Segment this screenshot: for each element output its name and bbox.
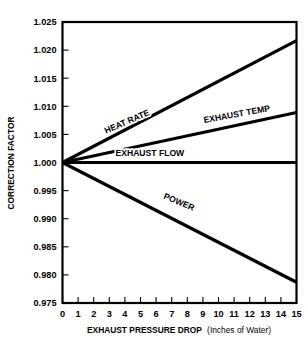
y-tick-label: 0.990 (34, 214, 57, 224)
x-tick-label: 9 (200, 309, 205, 319)
y-tick-label: 0.985 (34, 242, 57, 252)
x-axis-title-main: EXHAUST PRESSURE DROP (87, 325, 202, 335)
y-tick-label: 1.010 (34, 102, 57, 112)
x-tick-label: 13 (260, 309, 270, 319)
chart-svg: 0.9750.9800.9850.9900.9951.0001.0051.010… (0, 0, 308, 351)
y-tick-label: 0.995 (34, 186, 57, 196)
y-axis-title: CORRECTION FACTOR (6, 117, 16, 210)
x-tick-label: 4 (122, 309, 128, 319)
x-tick-label: 8 (185, 309, 190, 319)
x-tick-label: 7 (169, 309, 174, 319)
y-axis-tick-labels: 0.9750.9800.9850.9900.9951.0001.0051.010… (34, 17, 57, 308)
x-tick-label: 6 (154, 309, 159, 319)
y-tick-label: 1.005 (34, 130, 57, 140)
y-tick-label: 1.025 (34, 17, 57, 27)
x-tick-label: 3 (107, 309, 112, 319)
series-label-exhaust-flow: EXHAUST FLOW (115, 148, 185, 158)
correction-factor-chart: 0.9750.9800.9850.9900.9951.0001.0051.010… (0, 0, 308, 351)
x-tick-label: 10 (213, 309, 223, 319)
y-tick-label: 1.015 (34, 74, 57, 84)
y-tick-label: 0.980 (34, 270, 57, 280)
y-tick-label: 0.975 (34, 298, 57, 308)
series-line-heat-rate (63, 41, 297, 163)
x-axis-tick-labels: 0123456789101112131415 (60, 309, 302, 319)
x-tick-label: 14 (276, 309, 287, 319)
x-tick-label: 1 (76, 309, 81, 319)
y-tick-label: 1.000 (34, 158, 57, 168)
x-axis-title-paren: (Inches of Water) (207, 325, 271, 335)
y-tick-label: 1.020 (34, 45, 57, 55)
y-axis-title-text: CORRECTION FACTOR (6, 117, 16, 210)
x-tick-label: 15 (291, 309, 301, 319)
series-line-power (63, 163, 297, 283)
x-tick-label: 5 (138, 309, 143, 319)
x-tick-label: 11 (229, 309, 239, 319)
x-tick-label: 0 (60, 309, 65, 319)
series-label-power: POWER (162, 191, 197, 213)
x-tick-label: 2 (91, 309, 96, 319)
series-lines (63, 41, 297, 283)
x-axis-title-text: EXHAUST PRESSURE DROP (Inches of Water) (87, 325, 271, 335)
x-axis-title: EXHAUST PRESSURE DROP (Inches of Water) (87, 325, 271, 335)
x-tick-label: 12 (245, 309, 255, 319)
